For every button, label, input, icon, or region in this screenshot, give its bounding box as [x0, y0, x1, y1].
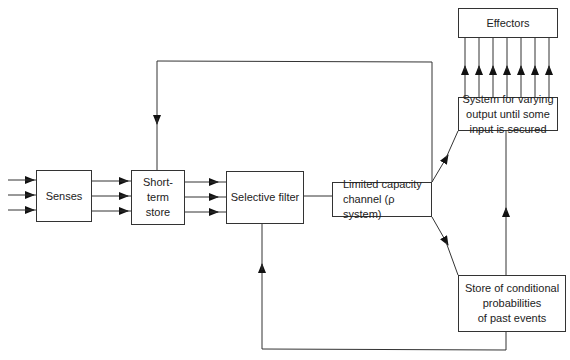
store-of-conditional-probabilities-box: Store of conditional probabilities of pa… [458, 275, 566, 332]
effectors-box: Effectors [458, 8, 558, 38]
senses-box: Senses [36, 170, 92, 222]
effectors-label: Effectors [486, 16, 529, 31]
senses-label: Senses [46, 189, 83, 204]
limited-capacity-channel-label: Limited capacity channel (ρ system) [343, 177, 431, 222]
store-of-conditional-probabilities-label: Store of conditional probabilities of pa… [465, 281, 559, 326]
selective-filter-box: Selective filter [226, 171, 304, 224]
system-for-varying-output-box: System for varying output until some inp… [458, 97, 558, 131]
short-term-store-label: Short- term store [143, 175, 173, 220]
selective-filter-label: Selective filter [231, 190, 299, 205]
limited-capacity-channel-box: Limited capacity channel (ρ system) [332, 182, 432, 217]
short-term-store-box: Short- term store [131, 170, 185, 225]
system-for-varying-output-label: System for varying output until some inp… [462, 92, 553, 137]
